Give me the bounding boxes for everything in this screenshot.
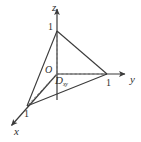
x-axis-label: x	[14, 126, 19, 137]
region-label: Dxy	[55, 75, 68, 86]
x-axis-tick-label: 1	[24, 109, 29, 119]
origin-label: O	[45, 65, 52, 75]
region-label-subscript: xy	[63, 81, 68, 87]
edge-z-to-x	[27, 31, 57, 106]
coordinate-diagram-svg	[0, 0, 141, 142]
y-axis-label: y	[130, 74, 135, 85]
z-axis-tick-label: 1	[48, 22, 53, 32]
dashed-origin-to-x	[27, 74, 57, 106]
figure-container: z y x 1 1 1 O Dxy	[0, 0, 141, 142]
edge-z-to-y	[57, 31, 107, 74]
region-label-main: D	[55, 74, 63, 86]
y-axis-tick-label: 1	[106, 78, 111, 88]
z-axis-label: z	[52, 2, 56, 13]
